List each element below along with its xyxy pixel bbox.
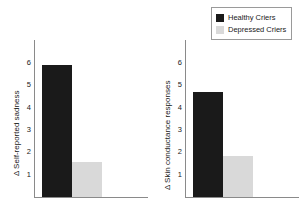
bar-depressed-criers (223, 156, 253, 197)
bar-depressed-criers (72, 162, 102, 197)
bar-healthy-criers (193, 92, 223, 197)
legend-item-depressed-criers: Depressed Criers (216, 24, 286, 35)
legend: Healthy Criers Depressed Criers (211, 7, 292, 40)
y-tick-label-6: 6 (170, 59, 182, 67)
y-axis-line (34, 40, 35, 198)
y-tick-label-6: 6 (19, 59, 31, 67)
chart-panel-skin-conductance-responses: 6 5 4 3 2 1 Δ Skin conductance responses… (151, 0, 302, 208)
legend-swatch-icon-depressed-criers (216, 26, 224, 34)
legend-label-healthy-criers: Healthy Criers (228, 14, 276, 22)
y-tick-label-5: 5 (19, 81, 31, 89)
x-axis-line (34, 197, 148, 198)
x-axis-line (185, 197, 299, 198)
legend-label-depressed-criers: Depressed Criers (228, 26, 286, 34)
y-axis-line (185, 40, 186, 198)
chart-panel-self-reported-sadness: 6 5 4 3 2 1 Δ Self-reported sadness (0, 0, 151, 208)
bar-healthy-criers (42, 65, 72, 197)
y-axis-title: Δ Skin conductance responses (164, 81, 172, 190)
figure-container: 6 5 4 3 2 1 Δ Self-reported sadness 6 5 … (0, 0, 302, 208)
y-axis-title: Δ Self-reported sadness (13, 91, 21, 176)
legend-item-healthy-criers: Healthy Criers (216, 12, 286, 23)
legend-swatch-icon-healthy-criers (216, 14, 224, 22)
